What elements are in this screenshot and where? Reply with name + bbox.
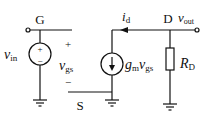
vin-label: vin	[4, 47, 18, 63]
resistor-icon	[166, 48, 174, 70]
node-s-label: S	[76, 98, 83, 113]
circuit-svg: + − G vin + vgs − S id D vout gmvgs RD	[0, 0, 212, 126]
gm-vgs-label: gmvgs	[125, 57, 154, 73]
cs-arrow-head-icon	[109, 65, 115, 71]
vgs-label: vgs	[59, 58, 74, 74]
node-d-label: D	[163, 11, 172, 26]
vin-minus: −	[37, 56, 42, 66]
circuit-diagram: + − G vin + vgs − S id D vout gmvgs RD	[0, 0, 212, 126]
ground-icon	[163, 104, 177, 110]
gate-terminal	[26, 28, 30, 32]
vout-terminal	[195, 28, 199, 32]
node-g-label: G	[35, 12, 44, 27]
ground-icon	[33, 100, 47, 106]
id-label: id	[122, 9, 131, 25]
vout-label: vout	[178, 10, 195, 26]
id-arrow-icon	[120, 27, 128, 33]
rd-label: RD	[179, 56, 196, 72]
vgs-plus-label: +	[65, 38, 71, 50]
vgs-minus-label: −	[65, 76, 71, 88]
vin-plus: +	[37, 44, 42, 54]
ground-icon	[105, 100, 119, 106]
